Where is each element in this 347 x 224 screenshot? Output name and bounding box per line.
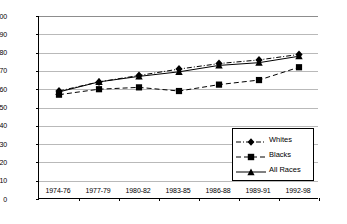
y-tick-label: 60 <box>0 86 7 93</box>
y-tick-label: 70 <box>0 67 7 74</box>
data-point-marker <box>216 82 222 88</box>
legend-item-blacks: Blacks <box>236 147 309 162</box>
x-tick-mark <box>319 198 320 201</box>
legend-label-all-races: All Races <box>269 166 301 174</box>
legend-sample-all-races <box>236 164 266 176</box>
y-tick-label: 10 <box>0 177 7 184</box>
chart-legend: Whites Blacks All Races <box>232 128 314 181</box>
y-tick-label: 50 <box>0 104 7 111</box>
data-point-marker <box>176 88 182 94</box>
y-tick-label: 40 <box>0 122 7 129</box>
legend-sample-whites <box>236 134 266 146</box>
y-tick-label: 30 <box>0 141 7 148</box>
y-tick-label: 0 <box>0 196 7 203</box>
y-tick-label: 20 <box>0 159 7 166</box>
legend-label-whites: Whites <box>269 136 292 144</box>
y-tick-mark <box>36 199 39 200</box>
plot-area: Whites Blacks All Races <box>38 16 318 199</box>
legend-sample-blacks <box>236 149 266 161</box>
data-point-marker <box>256 77 262 83</box>
legend-label-blacks: Blacks <box>269 151 291 159</box>
x-tick-label: 1992-98 <box>272 187 324 195</box>
legend-item-all-races: All Races <box>236 162 309 177</box>
y-tick-label: 80 <box>0 49 7 56</box>
y-tick-label: 90 <box>0 31 7 38</box>
data-point-marker <box>296 64 302 70</box>
data-point-marker <box>96 86 102 92</box>
chart-container: Percent Whites <box>0 0 347 224</box>
data-point-marker <box>136 84 142 90</box>
y-tick-label: 100 <box>0 13 7 20</box>
legend-item-whites: Whites <box>236 132 309 147</box>
